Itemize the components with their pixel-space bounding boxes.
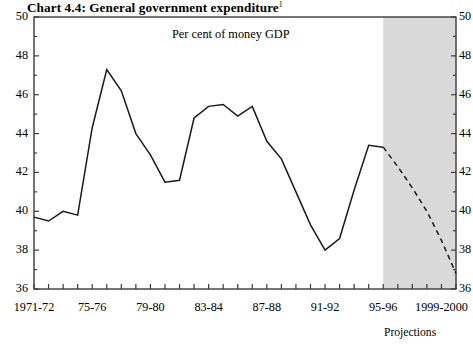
- y-axis-tick-label-left: 50: [4, 9, 28, 24]
- projections-annotation: Projections: [384, 326, 436, 339]
- x-axis-tick-label: 83-84: [194, 300, 222, 315]
- chart-subtitle: Per cent of money GDP: [172, 27, 289, 42]
- y-axis-tick-label-right: 40: [459, 203, 473, 218]
- y-axis-tick-label-right: 42: [459, 164, 473, 179]
- y-axis-tick-label-left: 46: [4, 87, 28, 102]
- series-line-outturn: [34, 69, 383, 250]
- x-axis-tick-label: 1971-72: [14, 300, 55, 315]
- y-axis-tick-label-left: 40: [4, 203, 28, 218]
- x-axis-tick-label: 91-92: [311, 300, 339, 315]
- x-axis-tick-label: 87-88: [253, 300, 281, 315]
- x-axis-tick-label: 1999-2000: [415, 300, 468, 315]
- y-axis-tick-label-left: 44: [4, 126, 28, 141]
- x-axis-tick-label: 95-96: [369, 300, 397, 315]
- chart-title-footnote-marker: 1: [279, 0, 283, 9]
- y-axis-tick-label-right: 46: [459, 87, 473, 102]
- y-axis-tick-label-left: 36: [4, 281, 28, 296]
- y-axis-tick-label-left: 42: [4, 164, 28, 179]
- chart-figure: Chart 4.4: General government expenditur…: [0, 0, 473, 344]
- plot-area: [0, 0, 473, 344]
- y-axis-tick-label-right: 38: [459, 242, 473, 257]
- y-axis-tick-label-right: 44: [459, 126, 473, 141]
- chart-title: Chart 4.4: General government expenditur…: [27, 0, 283, 16]
- chart-title-text: Chart 4.4: General government expenditur…: [27, 0, 279, 15]
- y-axis-tick-label-right: 48: [459, 48, 473, 63]
- y-axis-tick-label-left: 38: [4, 242, 28, 257]
- x-axis-tick-label: 79-80: [136, 300, 164, 315]
- x-axis-tick-label: 75-76: [78, 300, 106, 315]
- y-axis-tick-label-right: 36: [459, 281, 473, 296]
- y-axis-tick-label-right: 50: [459, 9, 473, 24]
- y-axis-tick-label-left: 48: [4, 48, 28, 63]
